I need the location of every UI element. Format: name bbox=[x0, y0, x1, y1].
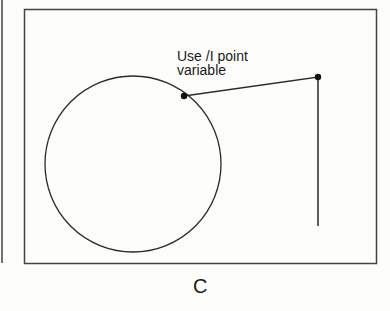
annotation-line1: Use /I point bbox=[177, 49, 248, 63]
diagram-canvas bbox=[0, 0, 390, 311]
point-on-circle bbox=[181, 93, 187, 99]
figure-caption: C bbox=[193, 275, 207, 298]
vertex-point bbox=[315, 74, 321, 80]
annotation-line2: variable bbox=[177, 63, 226, 77]
circle-shape bbox=[45, 76, 221, 252]
polyline-path bbox=[184, 77, 318, 226]
